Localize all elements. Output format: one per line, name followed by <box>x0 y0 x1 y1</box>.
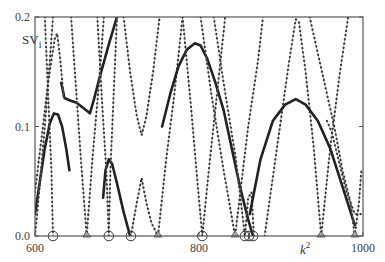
y-tick-label: 0.1 <box>15 120 30 134</box>
x-tick-label: 800 <box>190 241 208 255</box>
chart: 60080010000.00.10.2 SVi k2 <box>0 0 385 262</box>
x-tick-label: 1000 <box>351 241 375 255</box>
curve-dots-peak-920 <box>265 17 349 236</box>
curves <box>35 17 361 236</box>
axis-ticks: 60080010000.00.10.2 <box>15 10 375 255</box>
y-tick-label: 0.2 <box>15 10 30 24</box>
curve-v-844 <box>201 17 263 236</box>
x-axis-label: k2 <box>300 240 310 257</box>
curve-peak-920 <box>265 17 349 236</box>
curve-dots-v-844 <box>201 17 263 236</box>
y-tick-label: 0.0 <box>15 229 30 243</box>
curve-dots-right-steep <box>310 17 362 236</box>
x-tick-label: 600 <box>26 241 44 255</box>
curve-thick-plateau <box>61 17 117 113</box>
curve-dots-left-rise-peak <box>35 33 64 192</box>
curve-dots-v-730 <box>124 17 160 135</box>
curve-v-730 <box>124 17 160 135</box>
y-axis-label: SVi <box>22 32 42 50</box>
